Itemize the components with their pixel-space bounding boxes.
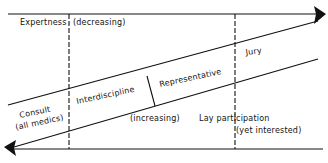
label-decreasing: (decreasing) bbox=[73, 18, 126, 27]
left-arrowhead-icon bbox=[4, 140, 16, 156]
label-yet-interested: (yet interested) bbox=[236, 126, 301, 135]
label-representative: Representative bbox=[159, 67, 223, 89]
interdiscipline-representative-divider bbox=[147, 76, 155, 106]
label-lay-participation: Lay participation bbox=[199, 114, 270, 123]
label-interdiscipline: Interdiscipline bbox=[76, 85, 136, 106]
label-expertness: Expertness bbox=[20, 18, 67, 27]
expertness-lay-participation-diagram: Expertness (decreasing) Jury Representat… bbox=[0, 0, 328, 163]
label-increasing: (increasing) bbox=[130, 114, 180, 123]
label-jury: Jury bbox=[244, 46, 262, 57]
upper-diagonal-line bbox=[8, 21, 318, 105]
